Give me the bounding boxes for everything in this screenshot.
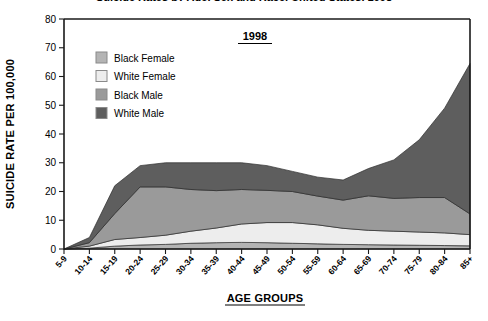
y-tick-label: 20 (45, 186, 57, 197)
x-tick-label: 70-74 (377, 253, 399, 276)
x-tick-label: 20-24 (123, 253, 145, 276)
x-tick-label: 80-84 (428, 253, 450, 276)
y-tick-label: 40 (45, 129, 57, 140)
x-tick-label: 50-54 (275, 253, 297, 276)
x-tick-label: 65-69 (352, 253, 374, 276)
legend-label-white-female: White Female (114, 71, 176, 82)
x-axis-title: AGE GROUPS (227, 292, 304, 304)
x-tick-label: 30-34 (174, 253, 196, 276)
x-tick-label: 5-9 (53, 253, 69, 269)
y-tick-label: 50 (45, 100, 57, 111)
y-axis-title: SUICIDE RATE PER 100,000 (4, 59, 16, 209)
legend-label-black-male: Black Male (114, 90, 163, 101)
stacked-area-chart: 010203040506070805-910-1415-1920-2425-29… (0, 0, 488, 321)
chart-legend: Black FemaleWhite FemaleBlack MaleWhite … (96, 52, 176, 119)
chart-figure: Suicide Rates by Age, Sex and Race, Unit… (0, 0, 488, 321)
year-label: 1998 (243, 30, 267, 42)
y-tick-label: 70 (45, 42, 57, 53)
x-tick-label: 25-29 (149, 253, 171, 276)
legend-swatch-black-male (96, 89, 107, 100)
year-annotation: 1998 (238, 30, 272, 44)
legend-label-white-male: White Male (114, 108, 164, 119)
legend-swatch-white-male (96, 108, 107, 119)
x-tick-label: 35-39 (199, 253, 221, 276)
x-tick-label: 15-19 (98, 253, 120, 276)
y-tick-label: 30 (45, 157, 57, 168)
legend-swatch-black-female (96, 52, 107, 63)
x-tick-label: 10-14 (72, 253, 94, 276)
legend-swatch-white-female (96, 71, 107, 82)
x-tick-label: 55-59 (301, 253, 323, 276)
x-tick-label: 75-79 (402, 253, 424, 276)
y-tick-label: 0 (50, 244, 56, 255)
x-tick-label: 60-64 (326, 253, 348, 276)
x-axis-title-group: AGE GROUPS (225, 292, 305, 305)
y-tick-label: 60 (45, 71, 57, 82)
x-tick-label: 45-49 (250, 253, 272, 276)
y-tick-label: 80 (45, 14, 57, 25)
y-tick-label: 10 (45, 215, 57, 226)
legend-label-black-female: Black Female (114, 53, 175, 64)
x-tick-label: 85+ (458, 254, 475, 271)
x-tick-label: 40-44 (225, 253, 247, 276)
